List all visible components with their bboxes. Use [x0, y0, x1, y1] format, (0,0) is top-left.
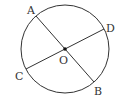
- label-c: C: [15, 70, 23, 83]
- label-a: A: [26, 4, 36, 17]
- label-o: O: [59, 54, 68, 67]
- label-b: B: [94, 85, 102, 98]
- circle-diagram: A D O C B: [0, 0, 119, 106]
- label-d: D: [106, 22, 115, 35]
- center-point-o: [63, 47, 67, 51]
